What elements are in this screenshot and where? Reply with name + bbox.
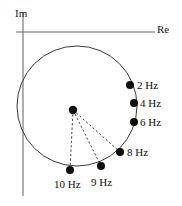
marker-dot-10hz — [66, 166, 74, 174]
imaginary-axis-label: Im — [15, 8, 27, 19]
frequency-label-10hz: 10 Hz — [54, 179, 81, 190]
real-axis-label: Re — [157, 24, 169, 35]
ray-pole-to-8hz — [73, 110, 120, 152]
frequency-label-8hz: 8 Hz — [127, 147, 148, 158]
ray-pole-to-10hz — [70, 110, 73, 170]
marker-dot-6hz — [130, 118, 138, 126]
frequency-label-6hz: 6 Hz — [140, 117, 161, 128]
marker-dot-2hz — [126, 81, 134, 89]
pole-zero-figure: Im Re 2 Hz 4 Hz 6 Hz 8 Hz 9 Hz 10 Hz — [0, 0, 182, 206]
pole-marker-dot — [69, 106, 77, 114]
unit-circle — [17, 46, 137, 166]
ray-pole-to-9hz — [73, 110, 101, 166]
marker-dot-9hz — [97, 162, 105, 170]
frequency-label-2hz: 2 Hz — [137, 80, 158, 91]
marker-dot-8hz — [116, 148, 124, 156]
frequency-label-4hz: 4 Hz — [140, 98, 161, 109]
frequency-label-9hz: 9 Hz — [91, 177, 112, 188]
marker-dot-4hz — [130, 99, 138, 107]
